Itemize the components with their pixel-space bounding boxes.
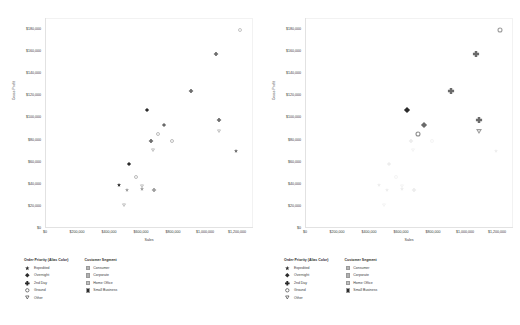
legend-item-label: Consumer [93,266,109,270]
legend-item-corporate[interactable]: Corporate [345,272,378,279]
x-axis-tick-label: $600,000 [394,230,409,234]
legend-item-consumer[interactable]: Consumer [345,264,378,271]
x-axis-tick-label: $1,000,000 [196,230,214,234]
y-axis-tick-label: $0 [37,226,41,230]
legend-item-consumer[interactable]: Consumer [85,264,118,271]
legend-item-corporate[interactable]: Corporate [85,272,118,279]
scatter-point[interactable] [238,28,242,32]
scatter-point[interactable] [140,187,144,191]
legend-item-expedited[interactable]: Expedited [284,264,329,271]
y-axis-tick-label: $40,000 [288,182,301,186]
legend-item-label: Home Office [353,281,372,285]
scatter-point[interactable] [409,139,413,143]
scatter-point[interactable] [217,129,221,133]
legend-item-overnight[interactable]: Overnight [284,272,329,279]
legend-item-ground[interactable]: Ground [24,287,69,294]
scatter-point[interactable] [162,123,166,127]
legend-item-home-office[interactable]: Home Office [85,279,118,286]
color-swatch [346,288,351,293]
scatter-point[interactable] [400,187,404,191]
scatter-point[interactable] [412,188,416,192]
y-axis-tick-label: $180,000 [26,27,41,31]
scatter-point[interactable] [394,175,398,179]
legend-item-2nd-day[interactable]: 2nd Day [284,279,329,286]
scatter-point[interactable] [151,147,155,151]
plot-area-left[interactable] [45,18,253,228]
legend-rows-order-priority: ExpeditedOvernight2nd DayGroundOther [24,264,69,301]
x-axis-tick-label: $0 [43,230,47,234]
scatter-point[interactable] [385,188,389,192]
legend-item-home-office[interactable]: Home Office [345,279,378,286]
legend-item-label: 2nd Day [34,281,47,285]
scatter-point[interactable] [189,89,193,93]
y-axis-tick-label: $120,000 [26,93,41,97]
scatter-point[interactable] [214,52,218,56]
legend-item-overnight[interactable]: Overnight [24,272,69,279]
color-swatch [346,281,351,286]
legend-item-label: 2nd Day [294,281,307,285]
scatter-point[interactable] [473,51,479,57]
scatter-point[interactable] [497,27,503,33]
legend-customer-segment-left: Customer Segment ConsumerCorporateHome O… [85,258,118,301]
y-axis-ticks-left: $0$20,000$40,000$60,000$80,000$100,000$1… [0,18,44,228]
plus-marker-icon [284,279,291,286]
plus-marker-icon [24,279,31,286]
y-axis-ticks-right: $0$20,000$40,000$60,000$80,000$100,000$1… [260,18,304,228]
plot-area-right[interactable] [305,18,513,228]
legend-item-label: Overnight [294,273,309,277]
scatter-point[interactable] [234,149,238,153]
legend-rows-customer-segment: ConsumerCorporateHome OfficeSmall Busine… [85,264,118,294]
y-axis-tick-label: $80,000 [288,138,301,142]
scatter-point[interactable] [377,183,381,187]
y-axis-tick-label: $20,000 [28,204,41,208]
legend-title-order-priority: Order Priority (Alias Color) [24,258,69,262]
legend-item-label: Expedited [294,266,310,270]
scatter-point[interactable] [387,162,391,166]
legend-item-other[interactable]: Other [24,294,69,301]
color-swatch [346,266,351,271]
scatter-point[interactable] [415,131,421,137]
scatter-point[interactable] [404,107,410,113]
legend-title-order-priority: Order Priority (Alias Color) [284,258,329,262]
scatter-point[interactable] [127,162,131,166]
scatter-point[interactable] [156,132,160,136]
legend-item-label: Other [34,296,43,300]
scatter-point[interactable] [382,203,386,207]
scatter-point[interactable] [170,139,174,143]
legend-item-ground[interactable]: Ground [284,287,329,294]
scatter-point[interactable] [421,122,427,128]
scatter-point[interactable] [430,139,434,143]
x-axis-tick-label: $1,000,000 [456,230,474,234]
legend-item-other[interactable]: Other [284,294,329,301]
legend-item-2nd-day[interactable]: 2nd Day [24,279,69,286]
scatter-point[interactable] [145,108,149,112]
y-axis-tick-label: $100,000 [26,115,41,119]
scatter-point[interactable] [476,128,482,134]
scatter-point[interactable] [134,175,138,179]
legend-item-small-business[interactable]: Small Business [85,287,118,294]
legend-item-small-business[interactable]: Small Business [345,287,378,294]
scatter-point[interactable] [122,203,126,207]
scatter-point[interactable] [117,183,121,187]
y-axis-tick-label: $100,000 [286,115,301,119]
scatter-point[interactable] [125,188,129,192]
legend-item-label: Expedited [34,266,50,270]
legend-item-expedited[interactable]: Expedited [24,264,69,271]
x-axis-tick-label: $400,000 [362,230,377,234]
x-axis-tick-label: $1,200,000 [228,230,246,234]
color-swatch [86,281,91,286]
scatter-point[interactable] [217,118,221,122]
color-swatch [346,273,351,278]
legend-item-label: Consumer [353,266,369,270]
scatter-point[interactable] [494,149,498,153]
scatter-point[interactable] [476,117,482,123]
scatter-point[interactable] [448,88,454,94]
star-marker-icon [284,265,291,272]
x-axis-tick-label: $1,200,000 [488,230,506,234]
legend-title-customer-segment: Customer Segment [345,258,378,262]
scatter-point[interactable] [152,188,156,192]
scatter-point[interactable] [411,147,415,151]
color-swatch [86,266,91,271]
scatter-point[interactable] [149,139,153,143]
y-axis-tick-label: $60,000 [28,160,41,164]
